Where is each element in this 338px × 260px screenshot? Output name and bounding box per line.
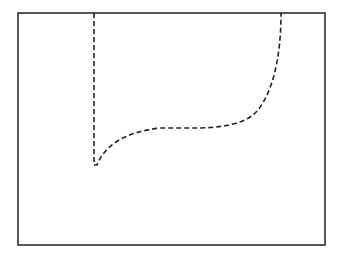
dashed-curve bbox=[94, 13, 281, 165]
diagram-canvas bbox=[0, 0, 338, 260]
